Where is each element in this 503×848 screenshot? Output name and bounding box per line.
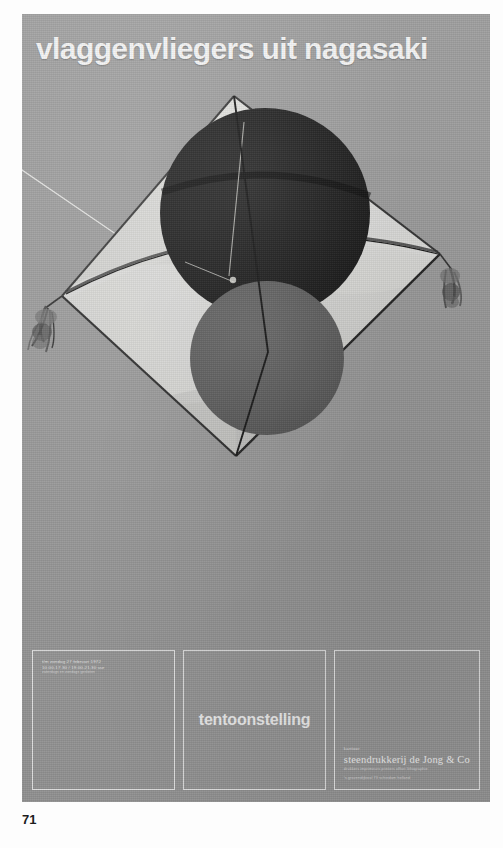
scanned-book-page: vlaggenvliegers uit nagasaki: [0, 0, 503, 848]
printer-name: steendrukkerij de Jong & Co: [344, 754, 470, 765]
poster-plate: vlaggenvliegers uit nagasaki: [22, 14, 490, 802]
opening-line-3: zaterdags en zondags gesloten: [42, 670, 165, 675]
tassel-right: [440, 254, 461, 308]
panel-opening-hours: t/m zondag 27 februari 1972 10.00-17.30 …: [32, 650, 175, 790]
panel-exhibition: tentoonstelling: [183, 650, 325, 790]
printer-label: kantoor: [344, 746, 470, 751]
tassel-left: [28, 296, 62, 352]
kite-photograph: [22, 84, 490, 574]
exhibition-word: tentoonstelling: [199, 711, 311, 729]
panel-printer: kantoor steendrukkerij de Jong & Co druk…: [334, 650, 480, 790]
page-title: vlaggenvliegers uit nagasaki: [22, 32, 428, 66]
page-number: 71: [22, 812, 36, 827]
poster-info-panels: t/m zondag 27 februari 1972 10.00-17.30 …: [32, 650, 480, 790]
poster-title-band: vlaggenvliegers uit nagasaki: [22, 20, 490, 78]
kite-illustration: [22, 84, 490, 574]
printer-line-2: 's-gravendijkwal 73 schiedam holland: [344, 776, 470, 781]
